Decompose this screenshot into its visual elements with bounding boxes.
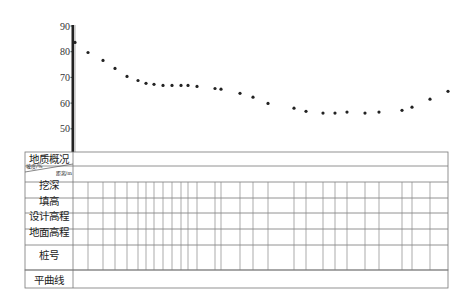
data-point [219,88,222,91]
profile-chart: 9080706050 地质概况 坡度/% 距离/m 挖深 填高 设计高程 地面高… [0,0,472,306]
data-point [136,79,139,82]
data-point [113,67,116,70]
row-label-slope: 坡度/% [26,163,43,170]
data-point [363,112,366,115]
profile-table: 地质概况 坡度/% 距离/m 挖深 填高 设计高程 地面高程 桩号 平曲线 [25,152,448,286]
y-tick-label: 50 [60,123,70,134]
row-label-fill-height: 填高 [39,195,59,207]
data-point [446,90,449,93]
data-point [266,102,269,105]
curve-row [25,270,448,288]
row-label-horizontal-curve: 平曲线 [34,274,65,286]
y-tick-label: 60 [60,98,70,109]
data-point [333,112,336,115]
data-point [410,106,413,109]
data-point [345,111,348,114]
data-point [195,85,198,88]
row-label-cut-depth: 挖深 [39,179,59,191]
data-point [144,82,147,85]
y-tick-label: 90 [60,21,70,32]
data-point [125,75,128,78]
data-point [101,59,104,62]
data-point [377,111,380,114]
data-point [238,92,241,95]
row-label-distance: 距离/m [56,170,73,177]
data-point [73,41,76,44]
data-point [186,84,189,87]
data-point [321,112,324,115]
y-tick-label: 70 [60,72,70,83]
data-point [152,83,155,86]
data-point [292,107,295,110]
data-point [400,109,403,112]
y-axis: 9080706050 [60,21,75,153]
data-point [170,84,173,87]
row-label-station: 桩号 [39,249,59,261]
data-point [179,84,182,87]
y-tick-label: 80 [60,46,70,57]
data-point [213,87,216,90]
data-point [86,51,89,54]
data-point [161,84,164,87]
data-points [73,41,449,115]
data-point [304,110,307,113]
data-point [428,98,431,101]
row-label-ground-elevation: 地面高程 [29,226,70,238]
data-point [251,96,254,99]
row-label-design-elevation: 设计高程 [29,210,70,222]
